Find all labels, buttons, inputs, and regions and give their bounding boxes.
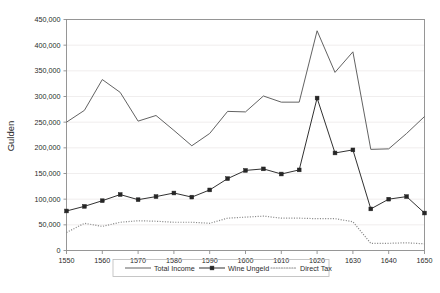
data-point-marker <box>118 193 122 197</box>
y-tick-label: 250,000 <box>35 118 61 127</box>
legend-label-1: Wine Ungeld <box>228 264 269 273</box>
data-point-marker <box>315 96 319 100</box>
data-point-marker <box>136 198 140 202</box>
y-tick-label: 200,000 <box>35 143 61 152</box>
series-layer <box>65 31 427 244</box>
data-point-marker <box>100 199 104 203</box>
data-point-marker <box>244 169 248 173</box>
y-tick-label: 0 <box>57 246 61 255</box>
y-tick-label: 350,000 <box>35 66 61 75</box>
data-point-marker <box>351 148 355 152</box>
x-tick-label: 1630 <box>345 256 361 265</box>
data-point-marker <box>190 195 194 199</box>
data-point-marker <box>226 177 230 181</box>
data-point-marker <box>423 211 427 215</box>
series-line-2 <box>67 216 425 244</box>
data-point-marker <box>279 172 283 176</box>
x-tick-label: 1640 <box>381 256 397 265</box>
line-chart: 050,000100,000150,000200,000250,000300,0… <box>0 0 440 293</box>
plot-area-border <box>67 20 425 251</box>
data-point-marker <box>333 151 337 155</box>
x-tick-label: 1610 <box>273 256 289 265</box>
data-point-marker <box>262 167 266 171</box>
chart-container: 050,000100,000150,000200,000250,000300,0… <box>0 0 440 293</box>
y-tick-label: 100,000 <box>35 195 61 204</box>
x-tick-label: 1590 <box>202 256 218 265</box>
y-axis-title: Gulden <box>5 121 16 152</box>
y-axis-title-label: Gulden <box>5 121 16 152</box>
x-tick-label: 1650 <box>417 256 433 265</box>
x-tick-label: 1550 <box>59 256 75 265</box>
data-point-marker <box>172 191 176 195</box>
y-tick-label: 50,000 <box>39 220 61 229</box>
x-tick-label: 1570 <box>130 256 146 265</box>
data-point-marker <box>297 168 301 172</box>
data-point-marker <box>369 207 373 211</box>
plot-frame <box>67 20 425 251</box>
data-point-marker <box>83 204 87 208</box>
data-point-marker <box>154 195 158 199</box>
y-axis-ticks: 050,000100,000150,000200,000250,000300,0… <box>35 15 67 255</box>
legend-label-0: Total Income <box>154 264 195 273</box>
data-point-marker <box>387 197 391 201</box>
legend-marker-1 <box>210 266 214 270</box>
y-tick-label: 400,000 <box>35 41 61 50</box>
y-tick-label: 450,000 <box>35 15 61 24</box>
legend-label-2: Direct Tax <box>300 264 332 273</box>
data-point-marker <box>405 195 409 199</box>
x-tick-label: 1560 <box>94 256 110 265</box>
y-tick-label: 300,000 <box>35 92 61 101</box>
data-point-marker <box>208 188 212 192</box>
data-point-marker <box>65 209 69 213</box>
series-line-0 <box>67 31 425 150</box>
y-tick-label: 150,000 <box>35 169 61 178</box>
